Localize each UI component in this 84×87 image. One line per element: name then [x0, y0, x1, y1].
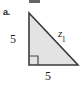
bottom-leg-length-label: 5 [45, 70, 51, 82]
figure-container: a. 5 5 z1 [0, 0, 84, 87]
left-leg-length-label: 5 [10, 33, 16, 45]
hypotenuse-label: z1 [58, 28, 66, 43]
triangle-shape [29, 13, 78, 65]
hypotenuse-subscript: 1 [62, 35, 66, 44]
